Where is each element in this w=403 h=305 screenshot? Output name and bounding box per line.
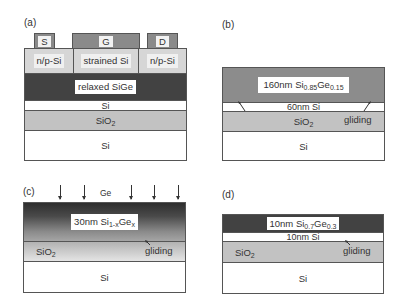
source-region-label: n/p-Si	[34, 54, 65, 68]
ge-arrow-icon	[60, 185, 61, 199]
relaxed-sige-layer: relaxed SiGe	[24, 73, 187, 101]
dislocation-arrow-icon	[345, 240, 355, 248]
relaxed-sige-label: relaxed SiGe	[75, 80, 136, 94]
dislocation-arrows-icon	[222, 100, 385, 114]
sige-label: 160nm Si0.85Ge0.15	[258, 77, 348, 93]
si-substrate-label: Si	[299, 141, 307, 152]
drain-region-label: n/p-Si	[147, 54, 178, 68]
panel-c-label: (c)	[23, 186, 35, 197]
si-substrate: Si	[222, 131, 385, 161]
source-label: S	[38, 36, 50, 47]
si-substrate-label: Si	[100, 272, 108, 283]
source-contact: S	[34, 33, 55, 49]
source-region: n/p-Si	[24, 48, 74, 74]
ge-arrow-icon	[154, 185, 155, 199]
sige-layer: 160nm Si0.85Ge0.15	[222, 67, 385, 103]
sio2-layer: SiO2	[24, 110, 187, 131]
ge-arrow-icon	[131, 185, 132, 199]
ge-arrow-icon	[84, 185, 85, 199]
ge-arrow-icon	[178, 185, 179, 199]
panel-a-label: (a)	[24, 17, 36, 28]
si-substrate-label: Si	[101, 140, 109, 151]
drain-region: n/p-Si	[138, 48, 187, 74]
drain-label: D	[156, 36, 169, 47]
sio2-label: SiO2	[235, 247, 255, 258]
sige-graded-layer: 30nm Si1-xGex	[23, 202, 186, 242]
gate-label: G	[99, 36, 112, 47]
dislocation-arrow-icon	[145, 240, 155, 248]
drain-contact: D	[147, 33, 178, 49]
sige-label: 30nm Si1-xGex	[71, 214, 138, 230]
gate-contact: G	[72, 33, 140, 49]
sio2-label: SiO2	[294, 116, 314, 127]
si-thin-label: Si	[101, 101, 109, 111]
si-substrate: Si	[222, 262, 384, 294]
panel-b-label: (b)	[222, 19, 234, 30]
sige-layer: 10nm Si0.7Ge0.3	[222, 214, 384, 233]
si-substrate-label: Si	[299, 273, 307, 284]
si-substrate: Si	[23, 261, 186, 293]
gliding-annotation: gliding	[344, 114, 371, 125]
sio2-label: SiO2	[36, 246, 56, 257]
sige-label: 10nm Si0.7Ge0.3	[267, 217, 338, 230]
si-substrate: Si	[24, 130, 187, 161]
strained-si-label: strained Si	[81, 54, 132, 68]
sio2-label: SiO2	[96, 115, 116, 126]
panel-d-label: (d)	[222, 189, 234, 200]
ge-label: Ge	[100, 188, 111, 198]
strained-si-channel: strained Si	[73, 48, 139, 74]
